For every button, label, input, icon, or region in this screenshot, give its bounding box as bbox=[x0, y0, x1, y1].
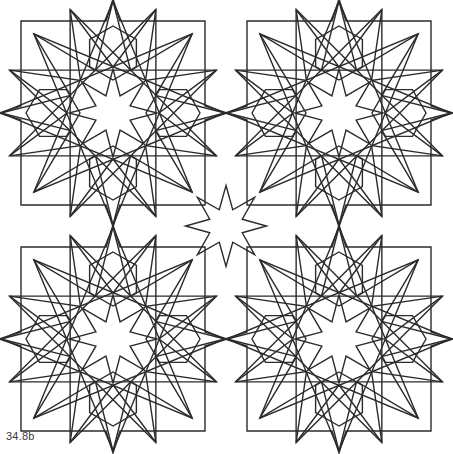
figure-caption: 34.8b bbox=[6, 430, 35, 443]
figure-root: 34.8b bbox=[0, 0, 453, 454]
pattern-background bbox=[0, 0, 453, 454]
geometric-pattern-svg bbox=[0, 0, 453, 454]
